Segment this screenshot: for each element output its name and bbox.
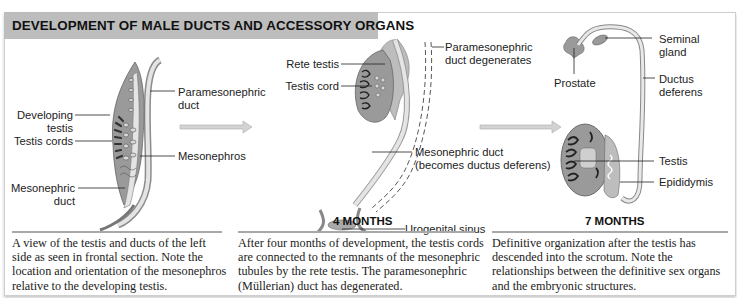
panel3-illustration — [561, 27, 655, 201]
caption-panel-1: A view of the testis and ducts of the le… — [12, 236, 226, 293]
label-prostate: Prostate — [554, 77, 596, 90]
label-paramesonephric-degenerates: Paramesonephric duct degenerates — [445, 41, 533, 67]
caption-rule-2 — [238, 231, 474, 233]
label-epididymis: Epididymis — [659, 176, 713, 189]
label-ductus-deferens: Ductus deferens — [659, 73, 703, 99]
caption-rule-3 — [492, 231, 728, 233]
label-testis-cords: Testis cords — [5, 135, 73, 148]
label-testis: Testis — [659, 155, 688, 168]
progression-arrow-1 — [180, 121, 252, 133]
label-mesonephric-duct: Mesonephric duct — [5, 182, 75, 208]
label-rete-testis: Rete testis — [270, 58, 339, 71]
label-urogenital-sinus: Urogenital sinus — [405, 223, 485, 236]
stage-label-7-months: 7 MONTHS — [585, 215, 644, 227]
caption-rule-1 — [12, 231, 222, 233]
caption-panel-3: Definitive organization after the testis… — [492, 236, 720, 293]
caption-panel-2: After four months of development, the te… — [238, 236, 484, 293]
label-seminal-gland: Seminal gland — [659, 33, 699, 59]
progression-arrow-2 — [480, 121, 561, 133]
label-paramesonephric-duct: Paramesonephric duct — [178, 86, 266, 112]
label-testis-cord: Testis cord — [270, 80, 339, 93]
label-developing-testis: Developing testis — [15, 109, 73, 135]
stage-label-4-months: 4 MONTHS — [333, 215, 392, 227]
panel1-illustration — [75, 60, 175, 230]
label-mesonephros: Mesonephros — [178, 150, 246, 163]
label-mesonephric-duct-4mo: Mesonephric duct (becomes ductus deferen… — [415, 146, 551, 172]
